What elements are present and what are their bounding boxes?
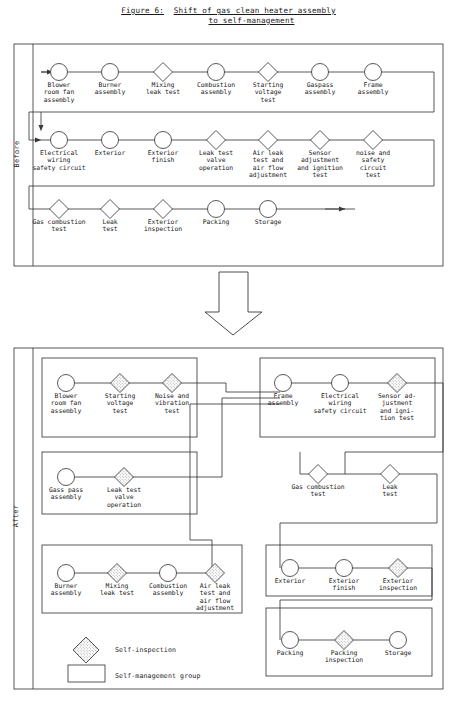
- node-label: Packing: [196, 219, 236, 226]
- inspection-diamond-icon: [50, 200, 69, 219]
- figure-container: Figure 6: Shift of gas clean heater asse…: [0, 0, 457, 701]
- node-label: Exterior inspection: [372, 578, 424, 593]
- node-label: Starting voltage test: [100, 393, 140, 415]
- node-label: Leak test valve operation: [102, 487, 146, 509]
- node-label: Blower room fan assembly: [39, 82, 79, 104]
- process-circle-icon: [58, 375, 75, 392]
- node-label: Leak test: [376, 484, 404, 499]
- node-label: Electrical wiring safety circuit: [309, 393, 371, 415]
- node-label: Storage: [377, 650, 419, 657]
- process-circle-icon: [160, 565, 177, 582]
- inspection-diamond-icon: [259, 131, 278, 150]
- self-inspection-diamond-icon: [163, 374, 182, 393]
- node-label: Exterior finish: [323, 578, 365, 593]
- process-circle-icon: [332, 375, 349, 392]
- inspection-diamond-icon: [381, 465, 400, 484]
- process-circle-icon: [58, 565, 75, 582]
- inspection-diamond-icon: [154, 63, 173, 82]
- process-circle-icon: [102, 64, 119, 81]
- node-label: Burner assembly: [45, 583, 87, 598]
- node-label: Combustion assembly: [142, 583, 194, 598]
- node-label: Sensor adjustment and ignition test: [292, 150, 348, 180]
- node-label: Packing: [269, 650, 311, 657]
- node-label: Leak test: [96, 219, 124, 234]
- node-label: noise and safety circuit test: [351, 150, 395, 180]
- node-label: Starting voltage test: [248, 82, 288, 104]
- node-label: Gass pass assembly: [44, 487, 88, 502]
- process-circle-icon: [365, 64, 382, 81]
- self-inspection-diamond-icon: [388, 374, 407, 393]
- node-label: Noise and vibration test: [149, 393, 195, 415]
- process-circle-icon: [208, 64, 225, 81]
- process-circle-icon: [208, 201, 225, 218]
- node-label: Frame assembly: [262, 393, 304, 408]
- before-wrap-1b: [29, 112, 41, 140]
- node-label: Mixing leak test: [143, 82, 183, 97]
- node-label: Leak test valve operation: [194, 150, 238, 172]
- process-circle-icon: [155, 132, 172, 149]
- node-label: Exterior inspection: [140, 219, 186, 234]
- process-circle-icon: [312, 64, 329, 81]
- legend-self-inspection-icon: [73, 637, 99, 663]
- legend-self-management-icon: [68, 665, 105, 682]
- self-inspection-diamond-icon: [115, 468, 134, 487]
- inspection-diamond-icon: [154, 200, 173, 219]
- self-inspection-diamond-icon: [111, 374, 130, 393]
- node-label: Packing inspection: [320, 650, 368, 665]
- node-label: Mixing leak test: [96, 583, 138, 598]
- node-label: Air leak test and air flow adjustment: [245, 150, 291, 180]
- process-circle-icon: [58, 469, 75, 486]
- process-circle-icon: [282, 560, 299, 577]
- node-label: Gaspass assembly: [300, 82, 340, 97]
- node-label: Frame assembly: [353, 82, 393, 97]
- inspection-diamond-icon: [309, 465, 328, 484]
- inspection-diamond-icon: [207, 131, 226, 150]
- node-label: Sensor ad- justment and igni- tion test: [372, 393, 422, 423]
- inspection-diamond-icon: [101, 200, 120, 219]
- process-circle-icon: [102, 132, 119, 149]
- self-inspection-diamond-icon: [389, 559, 408, 578]
- node-label: Gas combustion test: [27, 219, 91, 234]
- node-label: Exterior: [90, 150, 130, 157]
- inspection-diamond-icon: [311, 131, 330, 150]
- self-inspection-diamond-icon: [335, 631, 354, 650]
- node-label: Air leak test and air flow adjustment: [193, 583, 237, 613]
- self-inspection-diamond-icon: [108, 564, 127, 583]
- node-label: Exterior: [269, 578, 311, 585]
- legend-shapes: [68, 637, 105, 682]
- node-label: Storage: [248, 219, 288, 226]
- node-label: Exterior finish: [143, 150, 183, 165]
- node-label: Burner assembly: [90, 82, 130, 97]
- node-label: Gas combustion test: [285, 484, 351, 499]
- inspection-diamond-icon: [364, 131, 383, 150]
- after-g5-to-g2: [190, 404, 280, 573]
- process-circle-icon: [51, 132, 68, 149]
- process-circle-icon: [51, 64, 68, 81]
- after-g1-to-g2: [172, 383, 280, 392]
- process-circle-icon: [260, 201, 277, 218]
- inspection-diamond-icon: [259, 63, 278, 82]
- node-label: Combustion assembly: [190, 82, 242, 97]
- node-label: Blower room fan assembly: [44, 393, 88, 415]
- transition-arrow: [205, 272, 262, 335]
- process-circle-icon: [390, 632, 407, 649]
- process-circle-icon: [275, 375, 292, 392]
- node-label: Electrical wiring safety circuit: [31, 150, 87, 172]
- self-inspection-diamond-icon: [206, 564, 225, 583]
- process-circle-icon: [336, 560, 353, 577]
- process-circle-icon: [282, 632, 299, 649]
